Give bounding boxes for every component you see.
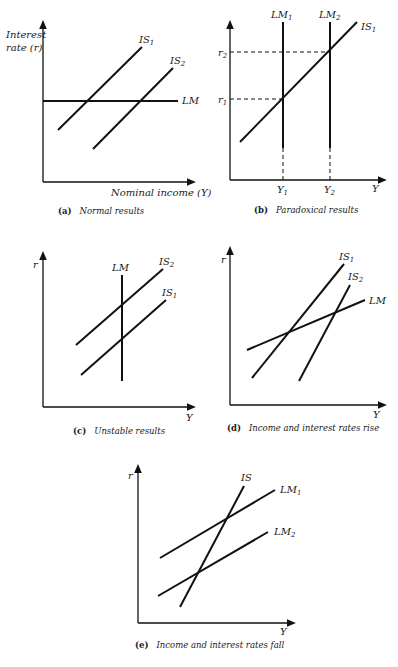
lm1-curve	[160, 490, 275, 558]
x-axis-label: Y	[186, 412, 194, 423]
panel-d: r IS1 IS2 LM Y (d)Income and interest ra…	[221, 250, 387, 433]
is1-label: IS1	[161, 287, 177, 300]
is2-curve	[76, 269, 163, 345]
x-axis-label: Nominal income (Y)	[110, 187, 212, 198]
is1-curve	[58, 47, 142, 130]
is2-curve	[299, 285, 350, 381]
lm2-label: LM2	[318, 9, 341, 22]
lm-label: LM	[181, 95, 200, 106]
r2-tick: r2	[218, 47, 228, 60]
panel-e: r IS LM1 LM2 Y (e)Income and interest ra…	[128, 468, 301, 650]
is1-label: IS1	[360, 21, 376, 34]
is-label: IS	[240, 472, 252, 483]
caption-a: (a)Normal results	[58, 206, 145, 216]
is1-curve	[81, 300, 166, 375]
lm2-label: LM2	[273, 526, 296, 539]
caption-e: (e)Income and interest rates fall	[135, 640, 284, 650]
y-axis-label: r	[128, 470, 134, 481]
caption-d: (d)Income and interest rates rise	[227, 423, 379, 433]
is2-label: IS2	[169, 55, 186, 68]
panel-a: Interest rate (r) IS1 IS2 LM Nominal inc…	[5, 24, 212, 216]
y-axis-label: r	[33, 259, 39, 270]
is1-curve	[240, 22, 357, 142]
lm1-label: LM1	[279, 484, 301, 497]
is1-label: IS1	[338, 251, 354, 264]
x-axis-label: Y	[373, 409, 381, 420]
y2-tick: Y2	[324, 184, 336, 197]
y-axis-label: r	[221, 254, 227, 265]
is2-curve	[93, 68, 173, 149]
is1-label: IS1	[138, 34, 154, 47]
caption-b: (b)Paradoxical results	[254, 205, 359, 215]
is-curve	[180, 486, 244, 607]
is2-label: IS2	[158, 256, 175, 269]
y-axis-label-2: rate (r)	[6, 42, 43, 53]
panel-b: LM1 LM2 IS1 r2 r1 Y1 Y2 Y (b)Paradoxical…	[218, 9, 383, 215]
lm-label: LM	[111, 262, 130, 273]
panel-c: r LM IS2 IS1 Y (c)Unstable results	[33, 255, 194, 436]
is2-label: IS2	[347, 271, 364, 284]
y1-tick: Y1	[277, 184, 288, 197]
lm-curve	[247, 300, 365, 350]
y-axis-label: Interest	[5, 29, 47, 40]
is-lm-figure: Interest rate (r) IS1 IS2 LM Nominal inc…	[0, 0, 398, 667]
lm-label: LM	[368, 295, 387, 306]
r1-tick: r1	[218, 94, 227, 107]
lm1-label: LM1	[270, 9, 292, 22]
caption-c: (c)Unstable results	[73, 426, 166, 436]
lm2-curve	[158, 532, 268, 596]
x-axis-label: Y	[280, 626, 288, 637]
x-axis-label: Y	[372, 183, 380, 194]
